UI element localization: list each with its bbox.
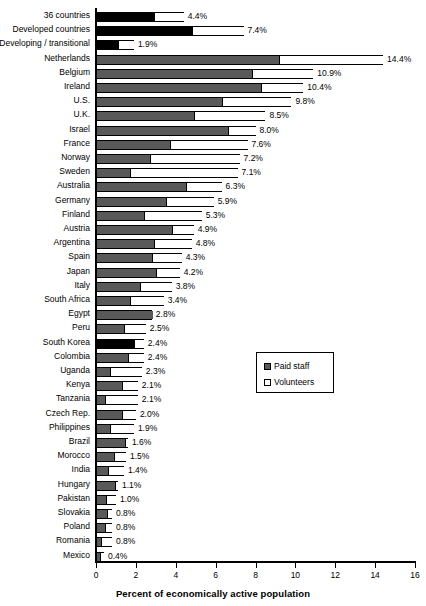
- category-label: Tanzania: [56, 393, 90, 404]
- bar-segment-volunteers: [131, 169, 239, 177]
- stacked-bar: [96, 253, 182, 263]
- category-label: Romania: [56, 535, 90, 546]
- stacked-bar: [96, 552, 104, 562]
- bar-segment-paid-staff: [97, 183, 187, 191]
- bar-segment-volunteers: [125, 325, 147, 333]
- chart-row: Poland0.8%: [96, 523, 415, 533]
- value-label: 0.8%: [116, 508, 135, 519]
- x-tick: [96, 563, 97, 568]
- stacked-bar: [96, 197, 214, 207]
- category-label: Kenya: [66, 379, 90, 390]
- category-label: U.K.: [73, 109, 90, 120]
- chart-row: Developed countries7.4%: [96, 26, 415, 36]
- bar-segment-paid-staff: [97, 98, 223, 106]
- bar-segment-volunteers: [131, 297, 165, 305]
- category-label: Netherlands: [44, 53, 90, 64]
- stacked-bar: [96, 140, 248, 150]
- x-tick-label: 8: [253, 570, 258, 580]
- bar-segment-volunteers: [153, 254, 183, 262]
- stacked-bar: [96, 26, 244, 36]
- bar-segment-paid-staff: [97, 283, 141, 291]
- chart-row: Brazil1.6%: [96, 438, 415, 448]
- chart-row: France7.6%: [96, 140, 415, 150]
- value-label: 4.2%: [184, 267, 203, 278]
- bar-segment-volunteers: [229, 127, 257, 135]
- category-label: Brazil: [69, 436, 90, 447]
- category-label: Japan: [67, 266, 90, 277]
- bar-segment-volunteers: [173, 226, 195, 234]
- chart-legend: Paid staff Volunteers: [256, 352, 334, 393]
- bar-segment-volunteers: [106, 396, 139, 404]
- value-label: 2.1%: [142, 380, 161, 391]
- legend-item-paid-staff: Paid staff: [264, 361, 309, 371]
- chart-row: Sweden7.1%: [96, 168, 415, 178]
- category-label: Colombia: [54, 351, 90, 362]
- value-label: 2.5%: [150, 323, 169, 334]
- bar-segment-paid-staff: [97, 425, 111, 433]
- category-label: South Korea: [43, 337, 90, 348]
- chart-row: Slovakia0.8%: [96, 509, 415, 519]
- bar-segment-paid-staff: [97, 169, 131, 177]
- category-label: Morocco: [57, 450, 90, 461]
- stacked-bar: [96, 225, 194, 235]
- chart-row: Japan4.2%: [96, 268, 415, 278]
- category-label: Egypt: [68, 308, 90, 319]
- stacked-bar: [96, 438, 128, 448]
- stacked-bar: [96, 495, 116, 505]
- value-label: 8.0%: [260, 125, 279, 136]
- bar-segment-paid-staff: [97, 127, 229, 135]
- value-label: 6.3%: [226, 181, 245, 192]
- bar-segment-paid-staff: [97, 467, 109, 475]
- bar-segment-volunteers: [167, 198, 215, 206]
- value-label: 10.4%: [307, 82, 331, 93]
- x-tick-label: 12: [331, 570, 340, 580]
- stacked-bar: [96, 111, 265, 121]
- bar-segment-paid-staff: [97, 240, 155, 248]
- chart-row: Pakistan1.0%: [96, 495, 415, 505]
- bar-segment-paid-staff: [97, 311, 153, 319]
- x-tick: [136, 563, 137, 568]
- bar-segment-paid-staff: [97, 84, 262, 92]
- stacked-bar: [96, 523, 112, 533]
- category-label: Hungary: [58, 479, 90, 490]
- value-label: 9.8%: [295, 96, 314, 107]
- chart-row: Spain4.3%: [96, 253, 415, 263]
- chart-row: Morocco1.5%: [96, 452, 415, 462]
- x-tick-label: 0: [94, 570, 99, 580]
- x-tick-label: 2: [134, 570, 139, 580]
- chart-row: Germany5.9%: [96, 197, 415, 207]
- chart-row: Belgium10.9%: [96, 69, 415, 79]
- x-tick-label: 4: [173, 570, 178, 580]
- value-label: 1.1%: [122, 480, 141, 491]
- stacked-bar: [96, 353, 144, 363]
- bar-segment-volunteers: [111, 368, 143, 376]
- bar-segment-paid-staff: [97, 510, 108, 518]
- value-label: 3.4%: [168, 295, 187, 306]
- category-label: 36 countries: [44, 10, 90, 21]
- stacked-bar: [96, 182, 222, 192]
- stacked-bar: [96, 424, 134, 434]
- category-label: France: [64, 138, 90, 149]
- bar-segment-paid-staff: [97, 382, 123, 390]
- value-label: 2.4%: [148, 338, 167, 349]
- chart-row: Australia6.3%: [96, 182, 415, 192]
- bar-segment-volunteers: [262, 84, 304, 92]
- bar-segment-volunteers: [108, 510, 113, 518]
- value-label: 1.5%: [130, 451, 149, 462]
- bar-segment-volunteers: [111, 425, 135, 433]
- chart-row: Romania0.8%: [96, 537, 415, 547]
- category-label: Peru: [72, 322, 90, 333]
- stacked-bar: [96, 466, 124, 476]
- x-tick: [335, 563, 336, 568]
- stacked-bar: [96, 168, 238, 178]
- x-tick: [375, 563, 376, 568]
- x-tick: [176, 563, 177, 568]
- legend-label-volunteers: Volunteers: [274, 377, 314, 387]
- value-label: 1.9%: [138, 423, 157, 434]
- value-label: 2.3%: [146, 366, 165, 377]
- bar-segment-paid-staff: [97, 56, 280, 64]
- stacked-bar: [96, 211, 202, 221]
- chart-row: Hungary1.1%: [96, 481, 415, 491]
- bar-segment-paid-staff: [97, 13, 155, 21]
- value-label: 4.4%: [188, 11, 207, 22]
